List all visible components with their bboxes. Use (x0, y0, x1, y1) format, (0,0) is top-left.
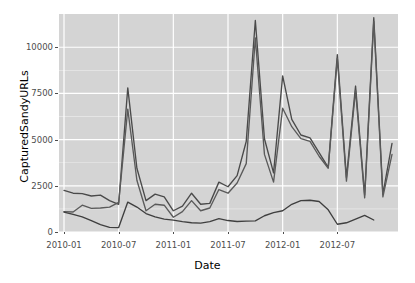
y-tick-mark (55, 93, 58, 94)
y-tick-label: 7500 (7, 88, 53, 98)
plot-panel (59, 14, 398, 232)
x-axis-title: Date (0, 259, 415, 272)
x-tick-label: 2011-01 (143, 240, 203, 250)
y-axis-title: CapturedSandyURLs (18, 27, 31, 227)
y-tick-label: 2500 (7, 181, 53, 191)
x-tick-label: 2012-07 (307, 240, 367, 250)
y-tick-label: 5000 (7, 135, 53, 145)
y-tick-label: 10000 (7, 42, 53, 52)
x-tick-label: 2010-07 (89, 240, 149, 250)
line-chart: CapturedSandyURLs Date 02500500075001000… (0, 0, 415, 283)
plot-svg (59, 14, 398, 232)
x-tick-label: 2012-01 (253, 240, 313, 250)
x-tick-label: 2010-01 (34, 240, 94, 250)
y-tick-mark (55, 140, 58, 141)
y-tick-mark (55, 232, 58, 233)
x-tick-label: 2011-07 (198, 240, 258, 250)
y-tick-label: 0 (7, 227, 53, 237)
y-tick-mark (55, 47, 58, 48)
y-tick-mark (55, 186, 58, 187)
series-line (64, 200, 374, 227)
